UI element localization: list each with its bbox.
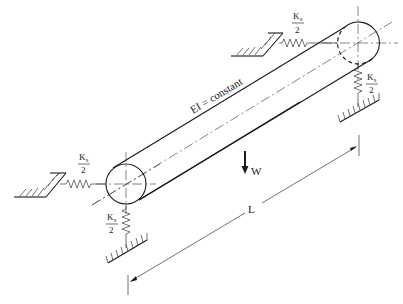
svg-text:s: s [86,157,89,163]
svg-text:s: s [374,77,377,83]
length-label: L [248,203,255,215]
load-arrow-icon [242,151,249,174]
left-vertical-spring-label: K s 2 [106,212,118,235]
dimension-arrow-right-icon [350,146,357,151]
right-vertical-spring-label: K s 2 [366,72,378,95]
svg-text:K: K [79,152,86,162]
left-horizontal-ground-icon [14,173,66,197]
svg-text:K: K [107,212,114,222]
svg-text:2: 2 [369,85,374,95]
length-dimension [128,135,359,295]
svg-text:s: s [114,217,117,223]
load-label: W [251,165,262,177]
left-end-section [92,102,300,214]
beam-stiffness-label: EI = constant [188,75,245,116]
beam-on-springs-diagram: K s 2 K s 2 [0,0,403,304]
svg-text:2: 2 [109,225,114,235]
svg-text:K: K [367,72,374,82]
svg-text:K: K [293,11,300,21]
svg-text:s: s [300,16,303,22]
right-vertical-ground-icon [338,93,379,122]
right-horizontal-spring-label: K s 2 [292,11,304,35]
svg-text:2: 2 [81,165,86,175]
left-horizontal-spring-label: K s 2 [78,152,90,175]
right-horizontal-ground-icon [231,33,283,56]
right-horizontal-spring [279,39,338,47]
left-horizontal-spring [60,180,106,188]
dimension-arrow-left-icon [130,276,137,282]
svg-text:2: 2 [295,25,300,35]
left-vertical-ground-icon [106,233,147,263]
